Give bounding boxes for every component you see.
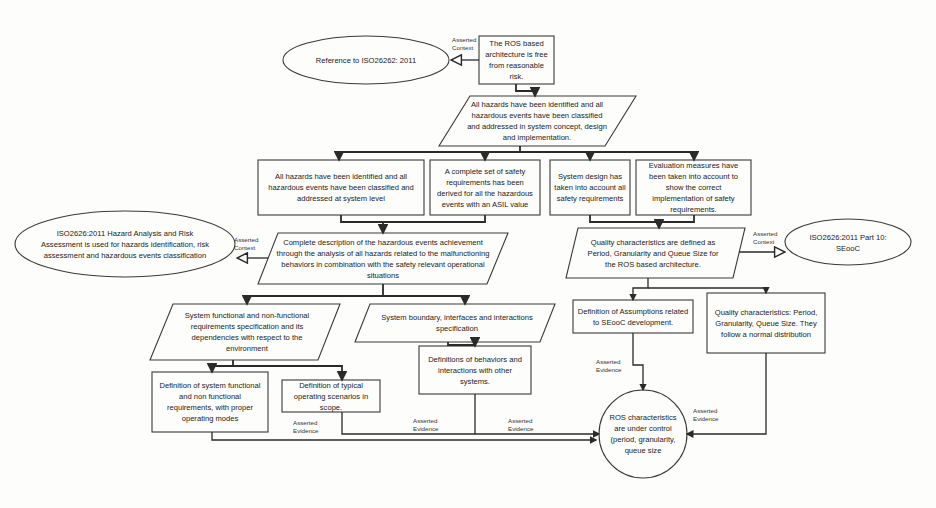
- label-asserted-evidence-scenarios: Asserted Evidence: [413, 417, 443, 434]
- goal-system-level: All hazards have been identified and all…: [258, 160, 424, 215]
- strategy-main: All hazards have been identified and all…: [462, 96, 612, 146]
- label-asserted-context-hara: Asserted Context: [234, 236, 264, 253]
- context-seooc: ISO2626:2011 Part 10: SEooC: [798, 228, 898, 258]
- goal-definition-scenarios: Definition of typical operating scenario…: [282, 380, 380, 412]
- goal-quality-distribution: Quality characteristics: Period, Granula…: [707, 293, 825, 353]
- label-asserted-context-top: Asserted Context: [452, 36, 480, 53]
- label-asserted-evidence-assumptions: Asserted Evidence: [596, 358, 626, 375]
- strategy-boundary: System boundary, interfaces and interact…: [372, 304, 542, 342]
- label-asserted-evidence-quality: Asserted Evidence: [693, 407, 723, 424]
- goal-evaluation: Evaluation measures have been taken into…: [636, 160, 751, 215]
- strategy-quality: Quality characteristics are defined as P…: [578, 228, 728, 278]
- goal-definition-assumptions: Definition of Assumptions related to SEo…: [573, 300, 693, 333]
- goal-definition-functional: Definition of system functional and non …: [152, 372, 268, 432]
- goal-safety-requirements: A complete set of safety requirements ha…: [430, 160, 540, 215]
- label-asserted-evidence-functional: Asserted Evidence: [293, 419, 323, 436]
- solution-ros-characteristics: ROS characteristics are under control (p…: [608, 405, 678, 463]
- goal-system-design: System design has taken into account all…: [550, 160, 630, 215]
- gsn-diagram: The ROS based architecture is free from …: [0, 0, 936, 508]
- context-iso26262: Reference to ISO26262: 2011: [290, 40, 442, 80]
- label-asserted-context-seooc: Asserted Context: [753, 230, 783, 247]
- goal-definition-behaviors: Definitions of behaviors and interaction…: [419, 346, 531, 394]
- label-asserted-evidence-behaviors: Asserted Evidence: [508, 417, 538, 434]
- context-hara: ISO2626:2011 Hazard Analysis and Risk As…: [35, 220, 215, 268]
- top-goal: The ROS based architecture is free from …: [479, 36, 554, 84]
- strategy-description: Complete description of the hazardous ev…: [272, 233, 494, 284]
- strategy-functional: System functional and non-functional req…: [168, 304, 326, 360]
